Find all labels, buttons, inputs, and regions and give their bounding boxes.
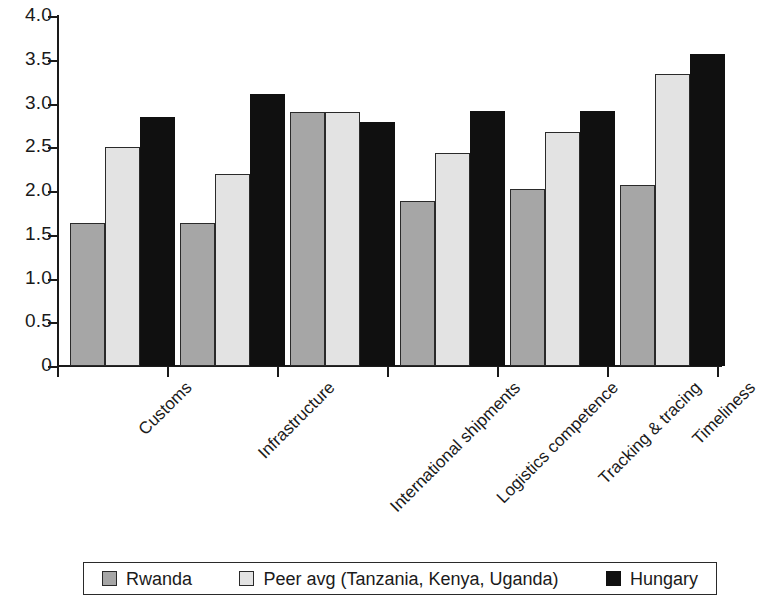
y-axis-tick-label: 3.0 [25, 93, 52, 112]
bar [620, 185, 655, 366]
bar-group [620, 16, 725, 366]
bar [215, 174, 250, 367]
y-axis-tick-label: 1.5 [25, 224, 52, 243]
bar [435, 153, 470, 367]
x-axis-tick-mark [717, 367, 719, 377]
bar [655, 74, 690, 366]
x-axis-tick-mark [57, 367, 59, 377]
bar-group [510, 16, 615, 366]
y-axis-tick-label: 1.0 [25, 268, 52, 287]
bar [105, 147, 140, 366]
bar-group [180, 16, 285, 366]
legend-item[interactable]: Peer avg (Tanzania, Kenya, Uganda) [239, 569, 558, 589]
bar-group [400, 16, 505, 366]
bar [510, 189, 545, 366]
bar [545, 132, 580, 366]
y-axis-tick-label: 4.0 [25, 5, 52, 24]
bar [140, 117, 175, 366]
bar [400, 201, 435, 366]
bar [325, 112, 360, 366]
bar-group [70, 16, 175, 366]
legend-swatch-icon [606, 571, 621, 586]
legend-item-label: Peer avg (Tanzania, Kenya, Uganda) [263, 569, 558, 589]
plot-area: 4.03.53.02.52.01.51.00.50 [57, 16, 722, 366]
x-axis-tick-mark [607, 367, 609, 377]
x-axis-tick-mark [167, 367, 169, 377]
y-axis-tick-label: 3.5 [25, 49, 52, 68]
x-axis-tick-mark [497, 367, 499, 377]
legend-item[interactable]: Hungary [606, 569, 698, 589]
bar [360, 122, 395, 366]
x-axis-tick-mark [277, 367, 279, 377]
legend-item-label: Hungary [630, 569, 698, 589]
chart-legend: RwandaPeer avg (Tanzania, Kenya, Uganda)… [83, 562, 717, 595]
y-axis-tick-label: 2.0 [25, 180, 52, 199]
y-axis-tick-label: 0 [41, 355, 52, 374]
x-axis-category-label: Customs [134, 378, 195, 439]
bar [470, 111, 505, 366]
legend-item[interactable]: Rwanda [102, 569, 192, 589]
x-axis-tick-mark [387, 367, 389, 377]
bar [690, 54, 725, 366]
legend-swatch-icon [102, 571, 117, 586]
y-axis-tick-label: 2.5 [25, 136, 52, 155]
y-axis-tick-label: 0.5 [25, 311, 52, 330]
bar [250, 94, 285, 366]
bar [290, 112, 325, 366]
bar-group [290, 16, 395, 366]
x-axis-category-label: Infrastructure [254, 378, 338, 462]
bar [180, 223, 215, 367]
bar [70, 223, 105, 367]
bar [580, 111, 615, 366]
legend-swatch-icon [239, 571, 254, 586]
legend-item-label: Rwanda [126, 569, 192, 589]
